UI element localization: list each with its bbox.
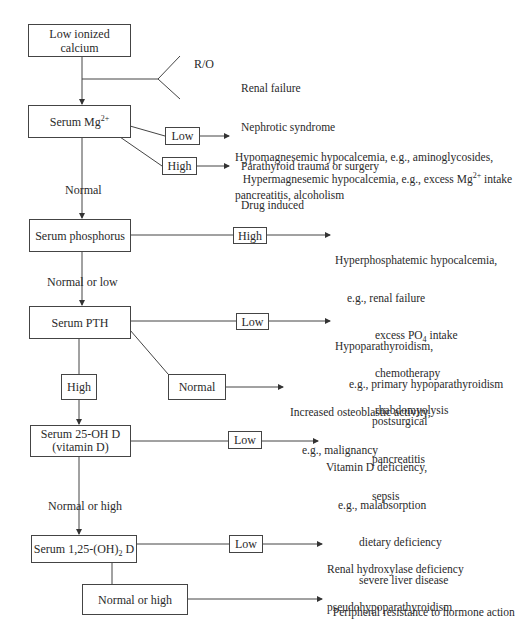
start-label-line1: Low ionized xyxy=(49,27,109,41)
vitd25-low-box: Low xyxy=(228,431,262,449)
mg-normal-label: Normal xyxy=(65,184,102,197)
serum-pth-box: Serum PTH xyxy=(29,306,131,339)
mg-high-box: High xyxy=(162,157,197,175)
pth-low-box: Low xyxy=(236,313,269,330)
phosphorus-normal-low-label: Normal or low xyxy=(47,276,118,289)
serum-phosphorus-box: Serum phosphorus xyxy=(29,219,131,252)
vitd25-normal-high-label: Normal or high xyxy=(48,500,122,513)
serum-mg-label: Serum Mg2+ xyxy=(50,115,110,129)
phosphorus-high-box: High xyxy=(233,227,267,244)
vitd125-low-box: Low xyxy=(229,535,263,553)
mg-high-outcome: Hypermagnesemic hypocalcemia, e.g., exce… xyxy=(237,160,512,185)
vitd125-normal-high-outcome: Peripheral resistance to hormone action xyxy=(327,593,515,618)
serum-mg-box: Serum Mg2+ xyxy=(28,105,131,138)
mg-low-box: Low xyxy=(165,127,200,145)
low-ionized-calcium-box: Low ionized calcium xyxy=(28,24,131,57)
pth-high-box: High xyxy=(61,374,97,400)
rule-out-item: Renal failure xyxy=(241,82,379,95)
start-label-line2: calcium xyxy=(61,41,99,55)
serum-25oh-d-box: Serum 25-OH D (vitamin D) xyxy=(30,425,131,457)
rule-out-label: R/O xyxy=(194,58,214,71)
vitd125-normal-high-box: Normal or high xyxy=(82,584,188,615)
serum-125oh2-d-box: Serum 1,25-(OH)2 D xyxy=(31,535,137,563)
pth-normal-box: Normal xyxy=(168,374,226,400)
